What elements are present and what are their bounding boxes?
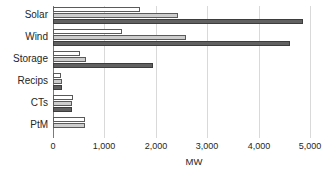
xtick-label-0: 0 (50, 141, 55, 151)
bar-group-ptm (53, 117, 310, 139)
x-axis-title-wrapper: MW (0, 156, 335, 167)
bar-group-solar (53, 7, 310, 29)
xtick-label-5000: 5,000 (299, 141, 322, 151)
bar-group-wind (53, 29, 310, 51)
plot-area (53, 6, 310, 138)
bar-group-storage (53, 51, 310, 73)
bar-wind-series-3 (53, 41, 290, 46)
bar-storage-series-3 (53, 63, 153, 68)
gridline-5000 (310, 6, 311, 138)
bar-cts-series-2 (53, 101, 72, 106)
bar-ptm-series-2 (53, 123, 85, 128)
xtick-label-1000: 1,000 (93, 141, 116, 151)
bar-storage-series-1 (53, 51, 80, 56)
bar-group-recips (53, 73, 310, 95)
category-label-solar: Solar (0, 9, 48, 20)
xtick-label-4000: 4,000 (248, 141, 271, 151)
category-label-cts: CTs (0, 97, 48, 108)
category-label-wind: Wind (0, 31, 48, 42)
bar-storage-series-2 (53, 57, 86, 62)
bar-recips-series-3 (53, 85, 62, 90)
bar-solar-series-2 (53, 13, 178, 18)
category-label-ptm: PtM (0, 119, 48, 130)
x-axis-title: MW (186, 156, 203, 167)
xtick-label-3000: 3,000 (196, 141, 219, 151)
bar-group-cts (53, 95, 310, 117)
xtick-label-2000: 2,000 (145, 141, 168, 151)
bar-chart: Solar Wind Storage Recips CTs PtM 0 1,00… (0, 0, 335, 183)
bar-cts-series-3 (53, 107, 72, 112)
bar-cts-series-1 (53, 95, 73, 100)
category-label-recips: Recips (0, 75, 48, 86)
bar-solar-series-3 (53, 19, 303, 24)
bar-wind-series-1 (53, 29, 122, 34)
bar-recips-series-1 (53, 73, 61, 78)
bar-wind-series-2 (53, 35, 186, 40)
bar-solar-series-1 (53, 7, 140, 12)
category-label-storage: Storage (0, 53, 48, 64)
bar-recips-series-2 (53, 79, 62, 84)
bar-ptm-series-1 (53, 117, 85, 122)
